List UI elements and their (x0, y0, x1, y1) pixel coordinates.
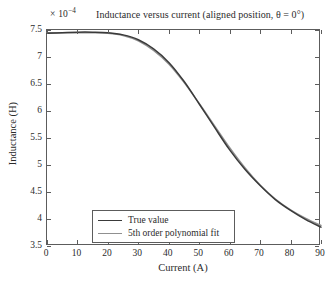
y-tick-mark (315, 165, 319, 166)
exponent-power: −4 (68, 7, 76, 15)
x-tick-label: 90 (315, 248, 325, 258)
x-tick-label: 10 (72, 248, 82, 258)
x-tick-label: 50 (193, 248, 203, 258)
y-tick-mark (315, 30, 319, 31)
y-tick-mark (47, 192, 51, 193)
y-tick-label: 6 (37, 105, 42, 115)
y-axis-label: Inductance (H) (7, 69, 18, 199)
chart-header: × 10−4 Inductance versus current (aligne… (0, 8, 334, 24)
x-tick-mark (291, 240, 292, 244)
chart-legend: True value 5th order polynomial fit (92, 210, 235, 243)
exponent-mantissa: × 10 (50, 9, 68, 19)
y-tick-mark (47, 30, 51, 31)
plot-area: True value 5th order polynomial fit (46, 29, 320, 245)
x-tick-mark (321, 30, 322, 34)
x-tick-mark (260, 240, 261, 244)
y-tick-mark (47, 219, 51, 220)
x-tick-mark (108, 30, 109, 34)
x-tick-mark (230, 30, 231, 34)
y-tick-label: 4.5 (30, 186, 42, 196)
legend-label-poly-fit: 5th order polynomial fit (128, 227, 219, 240)
x-tick-label: 80 (285, 248, 295, 258)
x-tick-mark (138, 30, 139, 34)
y-tick-label: 7.5 (30, 24, 42, 34)
y-tick-mark (315, 246, 319, 247)
x-tick-label: 40 (163, 248, 173, 258)
y-tick-mark (47, 165, 51, 166)
y-tick-mark (47, 111, 51, 112)
x-tick-mark (77, 30, 78, 34)
x-tick-label: 0 (44, 248, 49, 258)
y-tick-mark (315, 57, 319, 58)
x-tick-label: 30 (133, 248, 143, 258)
legend-swatch-poly-fit (98, 233, 122, 234)
y-tick-label: 3.5 (30, 240, 42, 250)
y-tick-label: 6.5 (30, 78, 42, 88)
y-tick-mark (47, 138, 51, 139)
x-tick-mark (260, 30, 261, 34)
y-tick-label: 5 (37, 159, 42, 169)
legend-label-true-value: True value (128, 214, 169, 227)
series-line-true-value (47, 32, 321, 227)
y-tick-label: 4 (37, 213, 42, 223)
y-tick-label: 7 (37, 51, 42, 61)
legend-swatch-true-value (98, 220, 122, 221)
x-tick-mark (291, 30, 292, 34)
y-tick-mark (47, 246, 51, 247)
x-tick-mark (77, 240, 78, 244)
series-line-poly-fit (47, 33, 321, 226)
x-tick-label: 20 (102, 248, 112, 258)
page-title: Inductance versus current (aligned posit… (96, 9, 304, 20)
x-tick-mark (199, 30, 200, 34)
y-tick-mark (47, 84, 51, 85)
x-tick-mark (321, 240, 322, 244)
chart-figure: × 10−4 Inductance versus current (aligne… (0, 0, 334, 285)
x-tick-label: 70 (254, 248, 264, 258)
x-axis-label: Current (A) (46, 262, 320, 273)
axis-exponent-multiplier: × 10−4 (50, 9, 76, 19)
legend-item-true-value: True value (98, 214, 229, 227)
x-tick-label: 60 (224, 248, 234, 258)
x-tick-mark (47, 240, 48, 244)
legend-item-poly-fit: 5th order polynomial fit (98, 227, 229, 240)
y-tick-mark (315, 111, 319, 112)
y-tick-mark (315, 219, 319, 220)
y-tick-label: 5.5 (30, 132, 42, 142)
x-tick-mark (169, 30, 170, 34)
y-tick-mark (315, 138, 319, 139)
y-tick-mark (315, 192, 319, 193)
y-tick-mark (315, 84, 319, 85)
y-tick-mark (47, 57, 51, 58)
